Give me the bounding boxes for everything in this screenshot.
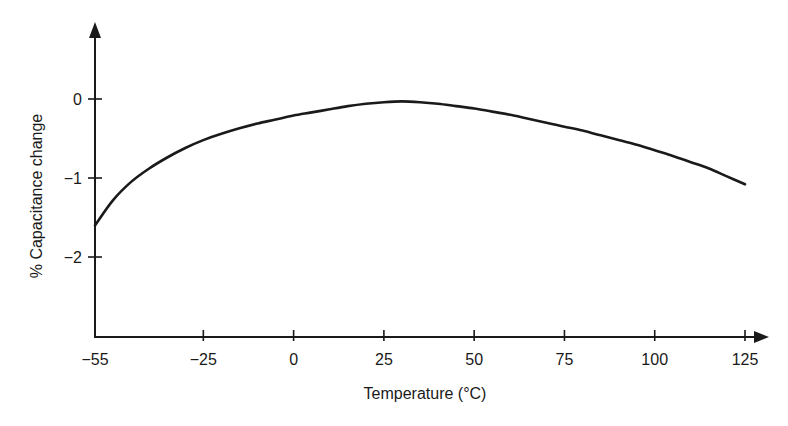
x-tick-label: 50 (465, 351, 483, 368)
x-tick-label: 75 (556, 351, 574, 368)
x-tick-label: 0 (289, 351, 298, 368)
axes (89, 22, 769, 343)
y-tick-label: −2 (64, 249, 82, 266)
tick-labels: −55−2502550751001250−1−2 (64, 91, 759, 368)
ticks (88, 99, 745, 341)
x-tick-label: −25 (190, 351, 217, 368)
y-axis-arrow-icon (89, 22, 101, 38)
y-axis-title: % Capacitance change (28, 114, 45, 279)
capacitance-curve (95, 101, 745, 225)
x-axis-title: Temperature (°C) (364, 385, 487, 402)
x-tick-label: 100 (641, 351, 668, 368)
x-tick-label: −55 (81, 351, 108, 368)
capacitance-temperature-chart: −55−2502550751001250−1−2 Temperature (°C… (0, 0, 788, 426)
y-tick-label: −1 (64, 170, 82, 187)
x-tick-label: 25 (375, 351, 393, 368)
y-tick-label: 0 (73, 91, 82, 108)
x-axis-arrow-icon (754, 331, 769, 343)
x-tick-label: 125 (732, 351, 759, 368)
